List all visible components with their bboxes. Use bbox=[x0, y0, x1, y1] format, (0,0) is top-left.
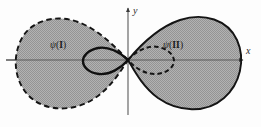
origin-node bbox=[126, 58, 129, 61]
y-axis-label: y bbox=[133, 6, 137, 16]
wavefunction-lobe-diagram bbox=[0, 0, 261, 127]
region-label-psi-2: ψ(II) bbox=[163, 41, 183, 51]
x-axis-label: x bbox=[246, 46, 250, 56]
left-lobe-fill bbox=[16, 19, 128, 109]
paren-close-left: ) bbox=[63, 40, 66, 50]
figure-container: y x ψ(I) ψ(II) bbox=[0, 0, 261, 127]
region-label-psi-1: ψ(I) bbox=[50, 41, 66, 51]
roman-numeral-right: II bbox=[172, 40, 180, 50]
right-lobe-fill bbox=[128, 17, 241, 109]
paren-close-right: ) bbox=[180, 40, 183, 50]
